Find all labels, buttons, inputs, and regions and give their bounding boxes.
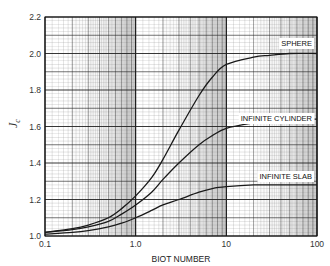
- y-tick-label: 1.4: [29, 158, 41, 168]
- y-tick-label: 1.8: [29, 85, 41, 95]
- curve-label: INFINITE CYLINDER: [241, 114, 313, 123]
- y-tick-label: 2.0: [29, 49, 41, 59]
- y-tick-label: 1.6: [29, 122, 41, 132]
- curve-label: SPHERE: [281, 39, 312, 48]
- y-tick-label: 2.2: [29, 12, 41, 22]
- x-axis-tick-labels: 0.11.010100: [39, 239, 324, 249]
- y-axis-tick-labels: 1.01.21.41.61.82.02.2: [29, 12, 41, 241]
- y-tick-label: 1.2: [29, 195, 41, 205]
- curve-label: INFINITE SLAB: [259, 172, 312, 181]
- y-tick-label: 1.0: [29, 231, 41, 241]
- x-tick-label: 1.0: [130, 239, 142, 249]
- x-tick-label: 10: [222, 239, 232, 249]
- x-axis-title: BIOT NUMBER: [152, 254, 211, 264]
- y-axis-title: Jc: [6, 119, 22, 128]
- x-tick-label: 100: [310, 239, 324, 249]
- chart: SPHEREINFINITE CYLINDERINFINITE SLAB 0.1…: [0, 0, 330, 266]
